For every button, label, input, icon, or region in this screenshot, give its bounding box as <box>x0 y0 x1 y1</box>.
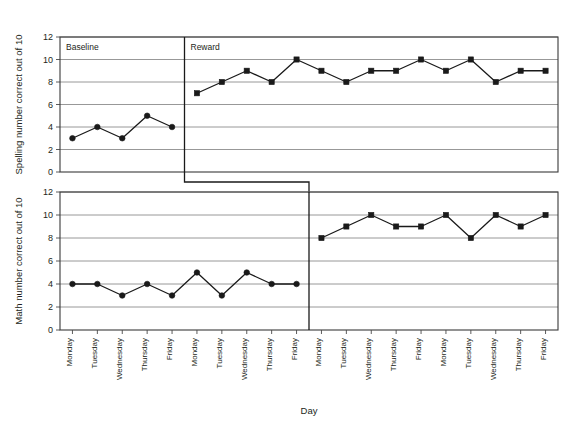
data-point-marker <box>294 281 300 287</box>
data-point-marker <box>194 270 200 276</box>
data-point-marker <box>543 212 548 217</box>
chart-canvas: 024681012BaselineRewardSpelling number c… <box>0 0 578 432</box>
data-point-marker <box>144 113 150 119</box>
y-tick-label: 6 <box>48 100 53 110</box>
data-point-marker <box>418 224 423 229</box>
x-tick-label: Monday <box>439 338 448 366</box>
data-point-marker <box>369 68 374 73</box>
phase-label-baseline: Baseline <box>66 42 99 52</box>
x-tick-label: Wednesday <box>240 338 249 380</box>
data-point-marker <box>443 212 448 217</box>
data-point-marker <box>518 224 523 229</box>
data-point-marker <box>418 57 423 62</box>
y-tick-label: 10 <box>43 55 53 65</box>
data-point-marker <box>169 124 175 130</box>
y-tick-label: 2 <box>48 302 53 312</box>
y-tick-label: 8 <box>48 77 53 87</box>
data-point-marker <box>493 79 498 84</box>
data-point-marker <box>294 57 299 62</box>
data-point-marker <box>344 79 349 84</box>
x-tick-label: Tuesday <box>215 338 224 368</box>
data-point-marker <box>144 281 150 287</box>
x-tick-label: Wednesday <box>489 338 498 380</box>
x-tick-label: Monday <box>190 338 199 366</box>
data-point-marker <box>70 281 76 287</box>
data-point-marker <box>194 91 199 96</box>
y-tick-label: 10 <box>43 210 53 220</box>
data-point-marker <box>219 79 224 84</box>
data-point-marker <box>70 135 76 141</box>
y-tick-label: 4 <box>48 279 53 289</box>
y-tick-label: 12 <box>43 32 53 42</box>
data-point-marker <box>169 293 175 299</box>
x-tick-label: Friday <box>290 338 299 360</box>
data-point-marker <box>394 224 399 229</box>
y-tick-label: 0 <box>48 167 53 177</box>
data-point-marker <box>95 281 101 287</box>
x-tick-label: Monday <box>65 338 74 366</box>
x-axis-title: Day <box>301 405 318 416</box>
data-point-marker <box>319 235 324 240</box>
y-tick-label: 12 <box>43 187 53 197</box>
data-point-marker <box>493 212 498 217</box>
x-tick-label: Friday <box>414 338 423 360</box>
y-axis-title-math: Math number correct out of 10 <box>13 197 24 324</box>
data-point-marker <box>95 124 101 130</box>
x-tick-label: Friday <box>539 338 548 360</box>
data-point-marker <box>269 281 275 287</box>
data-point-marker <box>369 212 374 217</box>
data-point-marker <box>518 68 523 73</box>
y-tick-label: 8 <box>48 233 53 243</box>
data-point-marker <box>344 224 349 229</box>
y-tick-label: 0 <box>48 325 53 335</box>
y-tick-label: 6 <box>48 256 53 266</box>
data-point-marker <box>269 79 274 84</box>
data-point-marker <box>119 135 125 141</box>
data-point-marker <box>119 293 125 299</box>
data-point-marker <box>468 57 473 62</box>
data-point-marker <box>443 68 448 73</box>
x-tick-label: Thursday <box>389 338 398 371</box>
data-point-marker <box>244 68 249 73</box>
x-tick-label: Friday <box>165 338 174 360</box>
y-tick-label: 4 <box>48 122 53 132</box>
x-tick-label: Monday <box>314 338 323 366</box>
data-point-marker <box>468 235 473 240</box>
x-tick-label: Tuesday <box>339 338 348 368</box>
x-tick-label: Wednesday <box>115 338 124 380</box>
multiple-baseline-chart: 024681012BaselineRewardSpelling number c… <box>0 0 578 432</box>
x-tick-label: Tuesday <box>90 338 99 368</box>
x-tick-label: Thursday <box>514 338 523 371</box>
y-tick-label: 2 <box>48 145 53 155</box>
data-point-marker <box>394 68 399 73</box>
x-tick-label: Wednesday <box>364 338 373 380</box>
phase-label-reward: Reward <box>191 42 221 52</box>
data-point-marker <box>219 293 225 299</box>
y-axis-title-spelling: Spelling number correct out of 10 <box>13 35 24 175</box>
x-tick-label: Tuesday <box>464 338 473 368</box>
x-tick-label: Thursday <box>265 338 274 371</box>
data-point-marker <box>319 68 324 73</box>
data-point-marker <box>543 68 548 73</box>
data-point-marker <box>244 270 250 276</box>
x-tick-label: Thursday <box>140 338 149 371</box>
